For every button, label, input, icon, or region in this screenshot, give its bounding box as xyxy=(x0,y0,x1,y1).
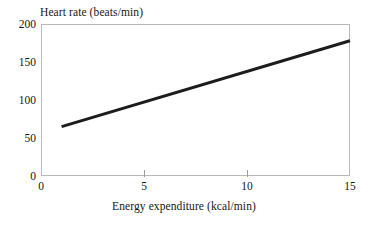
x-axis-tick-labels: 0 5 10 15 xyxy=(0,180,368,196)
chart-figure: Heart rate (beats/min) 200 150 100 50 0 … xyxy=(0,0,368,229)
y-tick-label-200: 200 xyxy=(19,18,36,30)
x-tick-mark-5 xyxy=(144,170,145,177)
x-axis-label: Energy expenditure (kcal/min) xyxy=(0,199,368,213)
x-tick-label-15: 15 xyxy=(344,180,356,193)
x-tick-label-0: 0 xyxy=(38,180,44,193)
data-line-heart-rate xyxy=(62,41,350,127)
x-tick-label-5: 5 xyxy=(141,180,147,193)
y-tick-label-50: 50 xyxy=(25,132,37,144)
plot-data-layer xyxy=(41,24,350,176)
x-tick-mark-10 xyxy=(247,170,248,177)
chart-title: Heart rate (beats/min) xyxy=(40,5,143,19)
x-tick-label-10: 10 xyxy=(241,180,253,193)
y-tick-label-150: 150 xyxy=(19,56,36,68)
y-tick-label-100: 100 xyxy=(19,94,36,106)
